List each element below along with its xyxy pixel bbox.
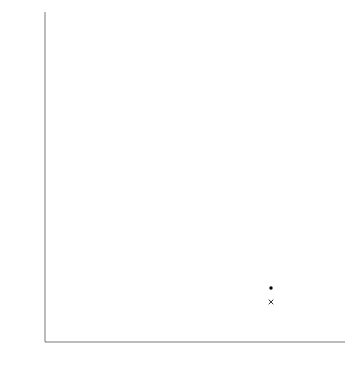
figure-container <box>0 0 356 389</box>
legend-marker-gullied <box>269 286 272 289</box>
chart-legend <box>269 286 274 304</box>
axes <box>45 12 345 342</box>
figure-caption-text <box>0 366 356 372</box>
figure-caption <box>0 366 356 389</box>
legend-marker-ungullied <box>269 300 274 305</box>
chart-svg <box>0 0 356 366</box>
scatter-chart <box>0 0 356 366</box>
